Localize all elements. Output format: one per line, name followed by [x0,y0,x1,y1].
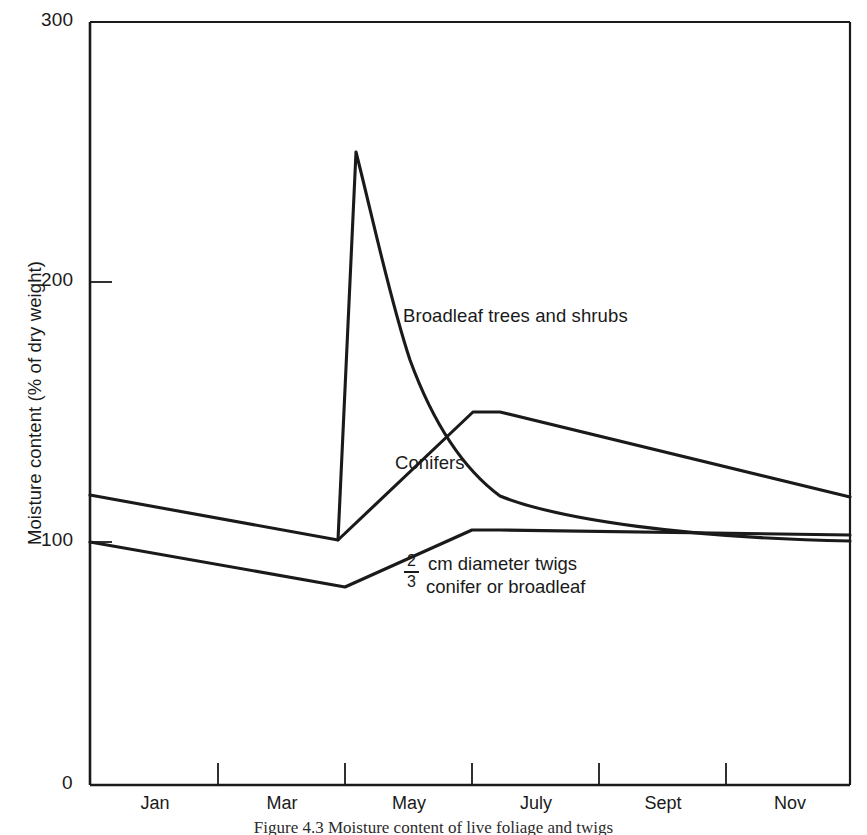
y-tick-label-0: 0 [62,772,73,794]
series-label-twigs: 2 3 cm diameter twigs conifer or broadle… [404,552,585,599]
x-tick-label-july: July [520,793,552,814]
fraction-two-thirds: 2 3 [404,553,419,591]
fraction-numerator: 2 [405,553,418,570]
twigs-label-line1: cm diameter twigs [428,552,585,575]
y-axis-title: Moisture content (% of dry weight) [24,193,46,613]
fraction-denominator: 3 [405,574,418,591]
x-tick-label-mar: Mar [267,793,298,814]
plot-frame [90,22,850,785]
x-tick-label-jan: Jan [140,793,169,814]
x-tick-label-sept: Sept [644,793,681,814]
series-label-conifers: Conifers [395,452,465,474]
twigs-label-line2: conifer or broadleaf [426,575,585,598]
series-helper-conifers [90,153,473,541]
x-tick-marks [218,763,726,785]
series-label-broadleaf: Broadleaf trees and shrubs [403,305,628,327]
y-tick-label-300: 300 [41,9,73,31]
x-tick-label-nov: Nov [774,793,806,814]
chart-canvas [0,0,867,835]
series-line-broadleaf [338,152,850,541]
series-line-conifers [90,412,850,540]
twigs-text-lines: cm diameter twigs conifer or broadleaf [426,552,585,599]
figure-container: 300 200 100 0 Moisture content (% of dry… [0,0,867,835]
y-tick-marks [90,282,112,542]
x-tick-label-may: May [392,793,426,814]
figure-caption: Figure 4.3 Moisture content of live foli… [0,818,867,835]
